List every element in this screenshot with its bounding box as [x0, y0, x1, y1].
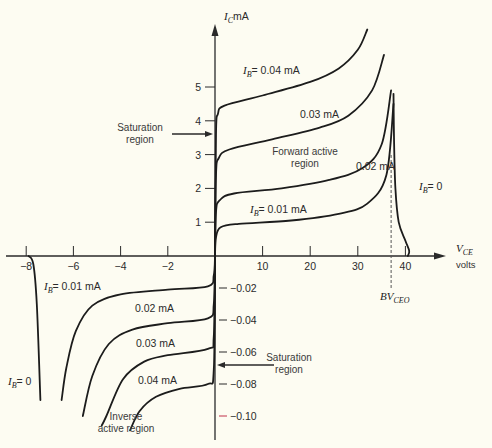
inverse-curve-i-b-0-02-ma: [83, 256, 215, 416]
ib-value: = 0.01 mA: [259, 203, 307, 215]
annotation-text: Forward active: [272, 146, 338, 157]
x-tick-label: 30: [352, 260, 364, 272]
annotation-arrowhead: [205, 131, 213, 137]
y-axis-title: ICmA: [223, 10, 249, 25]
ib-value: 0.02 mA: [135, 302, 174, 314]
annotation-text: Saturation: [266, 352, 312, 363]
inverse-curve-label: IB= 0: [7, 375, 32, 390]
annotation-text: region: [291, 158, 319, 169]
ib-value: = 0.04 mA: [252, 64, 300, 76]
x-axis-arrowhead: [434, 253, 446, 260]
annotation-text: active region: [98, 423, 155, 434]
inverse-curve-label: 0.03 mA: [136, 337, 175, 349]
ib-value: 0.03 mA: [136, 337, 175, 349]
inverse-curve-label: IB= 0.01 mA: [43, 280, 101, 295]
annotation-text: Saturation: [117, 122, 163, 133]
x-tick-label: −8: [20, 260, 32, 272]
forward-curve-i-b-0: [394, 94, 410, 256]
x-axis-title: VCE: [456, 242, 473, 257]
y-tick-label: 2: [195, 182, 201, 194]
y-tick-label: −0.02: [230, 282, 257, 294]
y-tick-label: −0.06: [230, 346, 257, 358]
ib-value: 0.02 mA: [356, 160, 395, 172]
ib-value: = 0: [428, 180, 443, 192]
y-tick-label: −0.04: [230, 314, 257, 326]
x-axis-unit: volts: [456, 259, 476, 270]
x-tick-label: −2: [162, 260, 174, 272]
y-tick-label: −0.10: [230, 410, 257, 422]
y-tick-label: 5: [195, 81, 201, 93]
inverse-curve-label: 0.02 mA: [135, 302, 174, 314]
annotation-text: Inverse: [110, 411, 143, 422]
bvceo-label: BVCEO: [380, 290, 410, 305]
y-tick-label: 4: [195, 115, 201, 127]
inverse-curve-label: 0.04 mA: [138, 374, 177, 386]
characteristic-curves: [29, 30, 410, 431]
forward-curve-label: 0.02 mA: [356, 160, 395, 172]
x-tick-label: 20: [304, 260, 316, 272]
ib-value: 0.04 mA: [138, 374, 177, 386]
ib-value: = 0.01 mA: [53, 280, 101, 292]
y-tick-label: −0.08: [230, 378, 257, 390]
x-tick-label: 10: [257, 260, 269, 272]
forward-curve-label: IB= 0.04 mA: [242, 64, 300, 79]
ib-value: 0.03 mA: [300, 108, 339, 120]
x-axis-subscript: CE: [463, 248, 473, 257]
y-tick-label: 1: [195, 216, 201, 228]
x-tick-label: −6: [67, 260, 79, 272]
y-tick-label: 3: [195, 149, 201, 161]
y-axis-unit: mA: [233, 10, 249, 22]
bvceo-subscript: CEO: [393, 296, 409, 305]
annotation-arrowhead: [217, 362, 225, 368]
x-tick-label: −4: [115, 260, 127, 272]
annotation-text: region: [275, 364, 303, 375]
x-tick-label: 40: [400, 260, 412, 272]
y-axis-arrowhead: [212, 24, 219, 36]
forward-curve-label: IB= 0: [418, 180, 443, 195]
ib-value: = 0: [17, 375, 32, 387]
forward-curve-label: 0.03 mA: [300, 108, 339, 120]
annotation-text: region: [126, 134, 154, 145]
axes: [6, 24, 446, 440]
forward-active-annotation: Forward active region: [272, 146, 338, 169]
forward-curve-label: IB= 0.01 mA: [249, 203, 307, 218]
forward-curve-i-b-0-01-ma: [215, 104, 394, 256]
transistor-characteristics-diagram: 10203040−2−4−6−812345−0.02−0.04−0.06−0.0…: [0, 0, 492, 448]
